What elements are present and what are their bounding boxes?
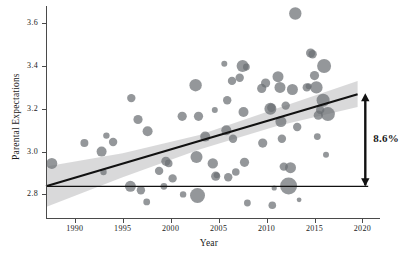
- data-point: [273, 71, 284, 82]
- data-point: [317, 59, 331, 73]
- x-axis-tick: [123, 219, 124, 223]
- annotation-arrow-head-down: [361, 178, 369, 186]
- y-axis-tick: [42, 109, 46, 110]
- x-axis-tick: [75, 219, 76, 223]
- data-point: [278, 135, 286, 143]
- data-point: [258, 139, 267, 148]
- data-point: [261, 79, 270, 88]
- data-point: [323, 152, 329, 158]
- y-axis-tick-label: 3.6: [12, 18, 38, 27]
- data-point: [168, 174, 176, 182]
- data-point: [178, 112, 187, 121]
- data-point: [239, 107, 249, 117]
- data-point: [275, 82, 286, 93]
- data-point: [293, 123, 301, 131]
- x-axis-tick-label: 2010: [247, 224, 287, 233]
- data-point: [232, 168, 240, 176]
- data-point: [282, 101, 290, 109]
- y-axis-tick: [42, 152, 46, 153]
- data-point: [189, 79, 201, 91]
- confidence-band: [46, 81, 358, 207]
- x-axis-tick-label: 2000: [151, 224, 191, 233]
- y-axis-line: [46, 6, 47, 218]
- data-point: [214, 172, 220, 178]
- annotation-arrow-head-up: [361, 93, 369, 101]
- data-point: [180, 191, 186, 197]
- data-point: [236, 74, 244, 82]
- data-point: [155, 167, 163, 175]
- y-axis-tick: [42, 23, 46, 24]
- data-point: [243, 64, 250, 71]
- x-axis-tick-label: 2005: [199, 224, 239, 233]
- x-axis-tick: [171, 219, 172, 223]
- data-point: [190, 188, 205, 203]
- data-point: [228, 77, 236, 85]
- data-point: [143, 199, 150, 206]
- data-point: [267, 104, 275, 112]
- data-point: [46, 158, 57, 169]
- data-point: [191, 151, 203, 163]
- x-axis-tick-label: 2020: [342, 224, 382, 233]
- y-axis-tick: [42, 66, 46, 67]
- data-point: [109, 138, 117, 146]
- data-point: [133, 115, 142, 124]
- y-axis-tick-label: 3.4: [12, 61, 38, 70]
- data-point: [165, 160, 173, 168]
- data-point: [224, 173, 232, 181]
- x-axis-tick-label: 1990: [55, 224, 95, 233]
- y-axis-tick: [42, 194, 46, 195]
- data-point: [212, 107, 218, 113]
- data-point: [103, 132, 109, 138]
- x-axis-tick-label: 1995: [103, 224, 143, 233]
- y-axis-tick-label: 2.8: [12, 189, 38, 198]
- x-axis-tick: [219, 219, 220, 223]
- chart-figure: Parental Expectations Year 8.6% 19901995…: [0, 0, 410, 265]
- data-point: [285, 162, 296, 173]
- data-point: [244, 200, 251, 207]
- data-point: [208, 158, 218, 168]
- y-axis-tick-label: 3.0: [12, 147, 38, 156]
- regression-line: [46, 94, 358, 186]
- change-annotation-label: 8.6%: [373, 132, 399, 144]
- data-point: [314, 133, 321, 140]
- data-point: [310, 81, 322, 93]
- data-point: [321, 107, 335, 121]
- data-point: [287, 84, 298, 95]
- data-point: [97, 147, 107, 157]
- x-axis-tick: [315, 219, 316, 223]
- x-axis-line: [46, 218, 380, 219]
- data-point: [269, 201, 277, 209]
- data-point: [127, 94, 135, 102]
- y-axis-tick-label: 3.2: [12, 104, 38, 113]
- x-axis-tick: [362, 219, 363, 223]
- x-axis-tick: [267, 219, 268, 223]
- data-point: [137, 186, 145, 194]
- data-point: [240, 158, 249, 167]
- data-point: [223, 96, 231, 104]
- data-point: [143, 126, 153, 136]
- data-point: [194, 112, 203, 121]
- x-axis-tick-label: 2015: [295, 224, 335, 233]
- data-point: [308, 50, 316, 58]
- data-point: [221, 61, 227, 67]
- data-point: [80, 139, 88, 147]
- data-point: [297, 197, 302, 202]
- data-point: [229, 135, 237, 143]
- data-point: [289, 7, 301, 19]
- data-point: [310, 71, 319, 80]
